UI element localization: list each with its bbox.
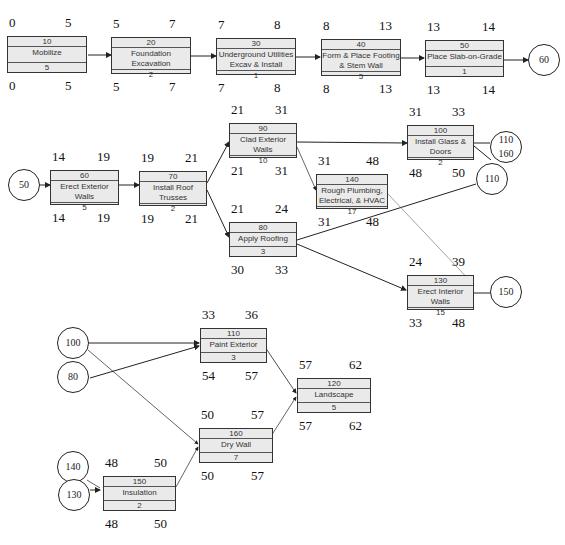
late-start: 14 xyxy=(52,210,65,226)
early-start: 0 xyxy=(9,15,16,31)
activity-node-20[interactable]: 20Foundation Excavation2 xyxy=(111,37,191,74)
activity-name: Clad Exterior Walls xyxy=(230,134,296,155)
early-start: 7 xyxy=(218,17,225,33)
activity-id: 30 xyxy=(217,39,295,49)
activity-name: Erect Interior Walls xyxy=(408,286,473,307)
early-start: 13 xyxy=(427,19,440,35)
late-finish: 62 xyxy=(349,418,362,434)
early-finish: 13 xyxy=(379,18,392,34)
activity-id: 10 xyxy=(8,37,86,47)
activity-node-50[interactable]: 50Place Slab-on-Grade1 xyxy=(425,40,504,77)
edge-90-100 xyxy=(297,142,407,143)
edge-100-c110_160-b xyxy=(474,146,491,160)
late-finish: 7 xyxy=(169,79,176,95)
early-start: 57 xyxy=(299,357,312,373)
edge-90-140 xyxy=(297,147,316,190)
late-finish: 57 xyxy=(245,368,258,384)
early-finish: 33 xyxy=(452,104,465,120)
late-finish: 31 xyxy=(275,163,288,179)
late-start: 0 xyxy=(9,78,16,94)
activity-name: Foundation Excavation xyxy=(112,48,190,69)
activity-id: 80 xyxy=(230,223,296,233)
edge-70-80 xyxy=(207,190,229,237)
early-finish: 7 xyxy=(169,16,176,32)
activity-node-80[interactable]: 80Apply Roofing3 xyxy=(229,222,297,257)
activity-duration: 5 xyxy=(298,402,370,412)
late-start: 13 xyxy=(427,82,440,98)
connector-node-50[interactable]: 50 xyxy=(8,169,40,201)
activity-name: Underground Utilities Excav & Install xyxy=(217,49,295,70)
late-start: 8 xyxy=(323,81,330,97)
activity-name: Paint Exterior xyxy=(201,339,266,352)
edge-150-160 xyxy=(176,447,198,487)
activity-node-70[interactable]: 70Install Roof Trusses2 xyxy=(139,171,207,206)
connector-node-110_160[interactable]: 110 160 xyxy=(490,131,522,163)
early-start: 31 xyxy=(318,153,331,169)
activity-name: Insulation xyxy=(104,487,175,500)
early-finish: 39 xyxy=(452,254,465,270)
activity-id: 90 xyxy=(230,124,296,134)
connector-node-130[interactable]: 130 xyxy=(58,479,90,511)
late-finish: 8 xyxy=(274,80,281,96)
early-start: 19 xyxy=(141,150,154,166)
late-start: 21 xyxy=(231,163,244,179)
activity-id: 60 xyxy=(51,171,118,181)
late-start: 5 xyxy=(113,79,120,95)
early-start: 50 xyxy=(201,407,214,423)
early-finish: 57 xyxy=(251,407,264,423)
activity-name: Mobilize xyxy=(8,47,86,62)
connector-node-100[interactable]: 100 xyxy=(57,327,89,359)
activity-node-150[interactable]: 150Insulation2 xyxy=(103,476,176,511)
activity-name: Apply Roofing xyxy=(230,233,296,246)
edge-110-120 xyxy=(265,347,296,393)
activity-node-110[interactable]: 110Paint Exterior3 xyxy=(200,328,267,363)
activity-node-160[interactable]: 160Dry Wall7 xyxy=(199,428,273,463)
late-finish: 33 xyxy=(275,262,288,278)
activity-name: Landscape xyxy=(298,389,370,402)
activity-duration: 2 xyxy=(112,69,190,79)
late-finish: 19 xyxy=(97,210,110,226)
late-finish: 57 xyxy=(251,468,264,484)
late-start: 48 xyxy=(105,516,118,532)
activity-node-100[interactable]: 100Install Glass & Doors2 xyxy=(407,125,474,160)
edge-140-c150 xyxy=(388,194,474,285)
connector-node-60[interactable]: 60 xyxy=(528,44,560,76)
connector-node-150[interactable]: 150 xyxy=(490,276,522,308)
activity-id: 110 xyxy=(201,329,266,339)
early-finish: 21 xyxy=(185,150,198,166)
early-start: 14 xyxy=(52,149,65,165)
activity-node-60[interactable]: 60Erect Exterior Walls5 xyxy=(50,170,119,205)
activity-name: Dry Wall xyxy=(200,439,272,452)
early-finish: 24 xyxy=(275,201,288,217)
early-start: 31 xyxy=(409,104,422,120)
activity-node-10[interactable]: 10Mobilize5 xyxy=(7,36,87,73)
early-start: 24 xyxy=(409,254,422,270)
activity-duration: 5 xyxy=(322,71,400,81)
late-start: 48 xyxy=(409,165,422,181)
activity-duration: 7 xyxy=(200,452,272,462)
activity-name: Place Slab-on-Grade xyxy=(426,51,503,66)
edge-c140-150 xyxy=(87,480,100,488)
late-start: 33 xyxy=(409,315,422,331)
connector-node-110[interactable]: 110 xyxy=(476,163,508,195)
early-start: 21 xyxy=(231,102,244,118)
activity-node-30[interactable]: 30Underground Utilities Excav & Install1 xyxy=(216,38,296,75)
activity-node-90[interactable]: 90Clad Exterior Walls10 xyxy=(229,123,297,158)
activity-duration: 5 xyxy=(8,62,86,72)
early-start: 5 xyxy=(113,16,120,32)
activity-node-140[interactable]: 140Rough Plumbing, Electrical, & HVAC17 xyxy=(316,174,388,209)
early-start: 33 xyxy=(202,307,215,323)
activity-node-130[interactable]: 130Erect Interior Walls15 xyxy=(407,275,474,310)
activity-id: 160 xyxy=(200,429,272,439)
activity-id: 130 xyxy=(408,276,473,286)
edge-c100-160 xyxy=(88,350,198,444)
early-start: 48 xyxy=(105,455,118,471)
connector-node-80[interactable]: 80 xyxy=(57,361,89,393)
early-finish: 31 xyxy=(275,102,288,118)
activity-node-120[interactable]: 120Landscape5 xyxy=(297,378,371,413)
activity-name: Install Roof Trusses xyxy=(140,182,206,203)
activity-name: Install Glass & Doors xyxy=(408,136,473,157)
activity-name: Erect Exterior Walls xyxy=(51,181,118,202)
late-finish: 13 xyxy=(379,81,392,97)
activity-node-40[interactable]: 40Form & Place Footing & Stem Wall5 xyxy=(321,39,401,76)
